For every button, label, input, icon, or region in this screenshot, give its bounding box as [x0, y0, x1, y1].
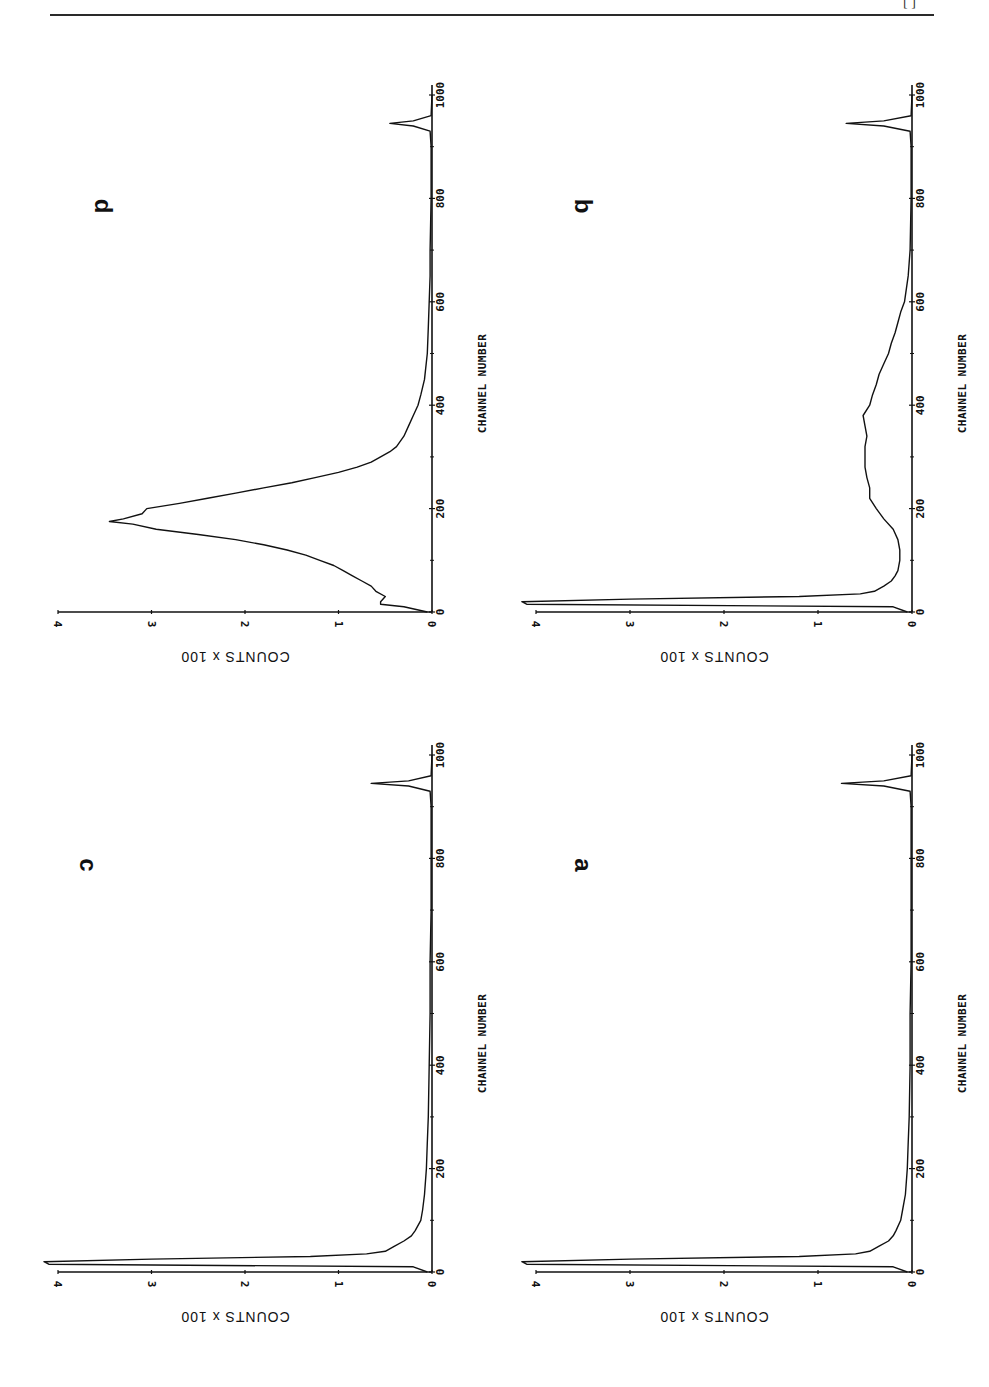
- x-tick-label: 1000: [434, 82, 447, 109]
- y-tick-label: 1: [811, 621, 824, 628]
- histogram-curve: [522, 755, 912, 1272]
- panel-letter: d: [90, 199, 117, 214]
- panel-b: 0200400600800100001234CHANNEL NUMBERCOUN…: [522, 82, 969, 665]
- y-axis-title: COUNTS x 100: [659, 1309, 768, 1325]
- x-tick-label: 200: [434, 499, 447, 519]
- y-tick-label: 0: [425, 621, 438, 628]
- y-tick-label: 2: [717, 621, 730, 628]
- x-tick-label: 600: [434, 292, 447, 312]
- y-tick-label: 2: [238, 621, 251, 628]
- y-tick-label: 1: [332, 1281, 345, 1288]
- x-axis-title: CHANNEL NUMBER: [956, 334, 969, 434]
- panel-letter: c: [75, 858, 102, 871]
- y-tick-label: 4: [529, 621, 542, 628]
- histogram-curve: [109, 95, 432, 612]
- x-tick-label: 0: [434, 609, 447, 616]
- y-tick-label: 3: [145, 1281, 158, 1288]
- panel-d: 0200400600800100001234CHANNEL NUMBERCOUN…: [51, 82, 489, 665]
- y-tick-label: 3: [145, 621, 158, 628]
- panel-a: 0200400600800100001234CHANNEL NUMBERCOUN…: [522, 742, 969, 1325]
- x-tick-label: 400: [434, 1055, 447, 1075]
- x-tick-label: 200: [914, 499, 927, 519]
- y-axis-title: COUNTS x 100: [180, 649, 289, 665]
- y-tick-label: 4: [51, 1281, 64, 1288]
- y-tick-label: 4: [529, 1281, 542, 1288]
- y-axis-title: COUNTS x 100: [659, 649, 768, 665]
- x-tick-label: 400: [914, 395, 927, 415]
- histogram-curve: [522, 95, 912, 612]
- panel-letter: a: [570, 858, 597, 872]
- y-tick-label: 0: [905, 1281, 918, 1288]
- x-tick-label: 1000: [914, 742, 927, 769]
- histogram-curve: [44, 755, 432, 1272]
- x-axis-title: CHANNEL NUMBER: [476, 334, 489, 434]
- x-tick-label: 1000: [914, 82, 927, 109]
- y-tick-label: 0: [905, 621, 918, 628]
- x-tick-label: 0: [434, 1269, 447, 1276]
- x-axis-title: CHANNEL NUMBER: [956, 994, 969, 1094]
- y-tick-label: 1: [332, 621, 345, 628]
- x-tick-label: 800: [914, 848, 927, 868]
- y-tick-label: 1: [811, 1281, 824, 1288]
- y-axis-title: COUNTS x 100: [180, 1309, 289, 1325]
- y-tick-label: 4: [51, 621, 64, 628]
- x-tick-label: 0: [914, 1269, 927, 1276]
- x-axis-title: CHANNEL NUMBER: [476, 994, 489, 1094]
- panel-c: 0200400600800100001234CHANNEL NUMBERCOUN…: [44, 742, 489, 1325]
- panel-letter: b: [570, 199, 597, 214]
- x-tick-label: 600: [914, 292, 927, 312]
- x-tick-label: 200: [434, 1159, 447, 1179]
- y-tick-label: 3: [623, 1281, 636, 1288]
- x-tick-label: 200: [914, 1159, 927, 1179]
- x-tick-label: 1000: [434, 742, 447, 769]
- x-tick-label: 400: [434, 395, 447, 415]
- x-tick-label: 600: [914, 952, 927, 972]
- x-tick-label: 400: [914, 1055, 927, 1075]
- x-tick-label: 800: [914, 188, 927, 208]
- y-tick-label: 2: [717, 1281, 730, 1288]
- y-tick-label: 0: [425, 1281, 438, 1288]
- x-tick-label: 800: [434, 848, 447, 868]
- histogram-figure: 0200400600800100001234CHANNEL NUMBERCOUN…: [0, 0, 989, 1387]
- y-tick-label: 2: [238, 1281, 251, 1288]
- x-tick-label: 0: [914, 609, 927, 616]
- y-tick-label: 3: [623, 621, 636, 628]
- x-tick-label: 600: [434, 952, 447, 972]
- x-tick-label: 800: [434, 188, 447, 208]
